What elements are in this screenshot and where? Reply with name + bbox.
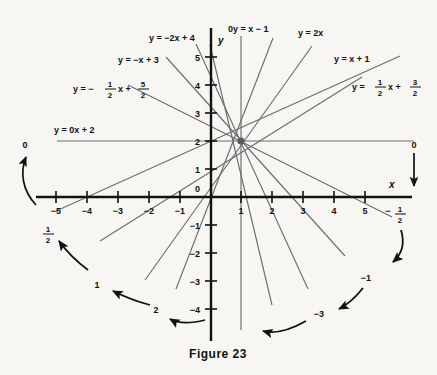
slope-label-one: 1 [94, 280, 99, 290]
y-tick-label--2: −2 [190, 249, 200, 259]
eq-neghalf-mid: x + [118, 84, 131, 94]
common-point-marker [237, 137, 244, 144]
slope-label-zero-left: 0 [22, 140, 27, 150]
y-tick-label--4: −4 [190, 305, 200, 315]
slope-half-den: 2 [46, 236, 51, 245]
equation-label-negx-plus3: y = −x + 3 [118, 55, 159, 65]
slope-neghalf-num: 1 [398, 205, 403, 214]
x-tick-label-3: 3 [300, 206, 305, 216]
slope-label-neg-one: −1 [361, 273, 371, 283]
coordinate-plane-figure: −5 −4 −3 −2 −1 1 2 3 4 5 5 4 3 2 1 −1 −2… [0, 0, 437, 375]
x-tick-label--2: −2 [144, 206, 154, 216]
eq-neghalf-num2: 5 [141, 80, 146, 89]
origin-label: 0 [195, 184, 200, 194]
eq-neghalf-den2: 2 [141, 91, 146, 100]
x-tick-label-4: 4 [331, 206, 336, 216]
x-tick-label--1: −1 [175, 206, 185, 216]
slope-neghalf-den: 2 [398, 216, 403, 225]
x-tick-label-5: 5 [362, 206, 367, 216]
slope-label-zero-right: 0 [411, 140, 416, 150]
slope-label-two: 2 [153, 305, 158, 315]
y-tick-label-1: 1 [195, 165, 200, 175]
slope-half-num: 1 [46, 225, 51, 234]
slope-neghalf-sign: − [385, 206, 390, 216]
x-axis-label: x [388, 179, 395, 190]
equation-label-neg2x-plus4: y = −2x + 4 [149, 33, 195, 43]
eq-neghalf-prefix: y = − [73, 84, 94, 94]
x-tick-label--4: −4 [82, 206, 92, 216]
eq-half-mid: x + [388, 82, 401, 92]
equation-label-2x: y = 2x [298, 28, 323, 38]
equation-label-0y-equals-x-minus-1: 0y = x − 1 [228, 24, 269, 34]
y-tick-label-4: 4 [195, 81, 200, 91]
eq-neghalf-den1: 2 [108, 91, 113, 100]
eq-half-den1: 2 [378, 89, 383, 98]
eq-half-den2: 2 [413, 89, 418, 98]
figure-background [0, 0, 437, 375]
figure-23-container: −5 −4 −3 −2 −1 1 2 3 4 5 5 4 3 2 1 −1 −2… [0, 0, 437, 375]
y-tick-label--3: −3 [190, 277, 200, 287]
x-tick-label-1: 1 [238, 206, 243, 216]
y-tick-label--1: −1 [190, 221, 200, 231]
x-tick-label-2: 2 [269, 206, 274, 216]
slope-label-neg-three: −3 [314, 309, 324, 319]
x-tick-label--5: −5 [51, 206, 61, 216]
equation-label-0x-plus-2: y = 0x + 2 [54, 125, 95, 135]
equation-label-x-plus-1: y = x + 1 [334, 54, 370, 64]
y-tick-label-3: 3 [195, 109, 200, 119]
figure-caption: Figure 23 [189, 347, 247, 361]
eq-half-num2: 3 [413, 78, 418, 87]
y-tick-label-2: 2 [195, 137, 200, 147]
eq-half-num1: 1 [378, 78, 383, 87]
eq-half-prefix: y = [352, 82, 365, 92]
eq-neghalf-num1: 1 [108, 80, 113, 89]
x-tick-label--3: −3 [113, 206, 123, 216]
y-axis-label: y [217, 35, 224, 46]
y-tick-label-5: 5 [195, 53, 200, 63]
